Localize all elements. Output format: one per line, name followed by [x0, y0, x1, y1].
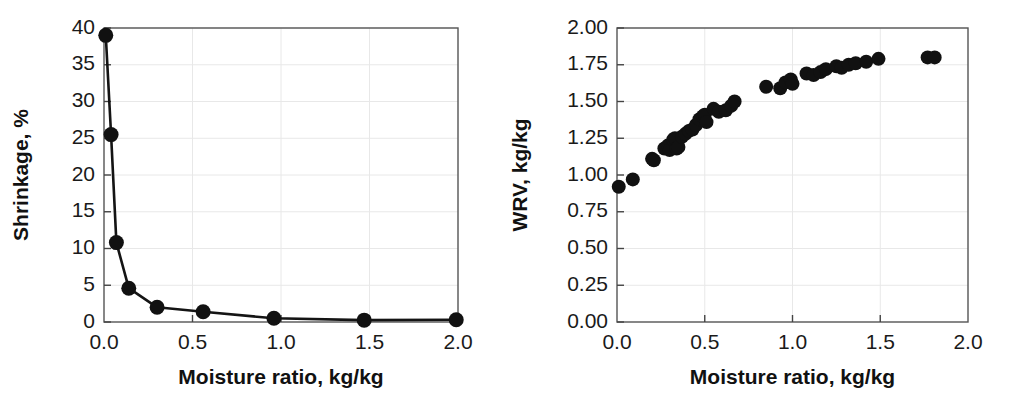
data-point: [872, 52, 886, 66]
data-point: [786, 77, 800, 91]
data-point: [109, 235, 124, 250]
data-point: [928, 50, 942, 64]
y-axis-title: Shrinkage, %: [9, 109, 32, 241]
two-panel-figure: 05101520253035400.00.51.01.52.0Shrinkage…: [0, 0, 1011, 417]
data-point: [759, 80, 773, 94]
shrinkage-panel: 05101520253035400.00.51.01.52.0Shrinkage…: [0, 0, 505, 417]
y-tick-label: 0.75: [567, 198, 608, 221]
data-point: [626, 172, 640, 186]
x-axis-title: Moisture ratio, kg/kg: [690, 365, 895, 388]
shrinkage-plot-svg: 05101520253035400.00.51.01.52.0Shrinkage…: [0, 0, 505, 417]
y-tick-label: 0: [83, 309, 95, 332]
x-axis-title: Moisture ratio, kg/kg: [178, 365, 383, 388]
data-point: [449, 312, 464, 327]
wrv-plot-svg: 0.000.250.500.751.001.251.501.752.000.00…: [505, 0, 1011, 417]
data-point: [98, 28, 113, 43]
data-point: [700, 115, 714, 129]
y-tick-label: 40: [72, 15, 95, 38]
y-tick-label: 25: [72, 125, 95, 148]
y-tick-label: 15: [72, 198, 95, 221]
y-tick-label: 10: [72, 235, 95, 258]
data-point: [104, 127, 119, 142]
y-tick-label: 20: [72, 162, 95, 185]
y-tick-label: 0.00: [567, 309, 608, 332]
y-tick-label: 1.75: [567, 51, 608, 74]
y-tick-label: 0.50: [567, 235, 608, 258]
y-tick-label: 1.25: [567, 125, 608, 148]
x-tick-label: 2.0: [443, 330, 472, 353]
y-tick-label: 35: [72, 51, 95, 74]
data-point: [612, 180, 626, 194]
y-tick-label: 1.00: [567, 162, 608, 185]
x-tick-label: 1.0: [266, 330, 295, 353]
data-point: [728, 95, 742, 109]
data-point: [150, 300, 165, 315]
x-tick-label: 0.5: [690, 330, 719, 353]
data-point: [196, 304, 211, 319]
x-tick-label: 1.0: [778, 330, 807, 353]
data-point: [647, 153, 661, 167]
y-axis-title: WRV, kg/kg: [508, 118, 531, 231]
x-tick-label: 2.0: [953, 330, 982, 353]
data-point: [357, 313, 372, 328]
y-tick-label: 0.25: [567, 272, 608, 295]
wrv-panel: 0.000.250.500.751.001.251.501.752.000.00…: [505, 0, 1011, 417]
y-tick-label: 1.50: [567, 88, 608, 111]
data-point: [266, 311, 281, 326]
data-point: [121, 281, 136, 296]
x-tick-label: 1.5: [355, 330, 384, 353]
x-tick-label: 0.5: [178, 330, 207, 353]
y-tick-label: 2.00: [567, 15, 608, 38]
x-tick-label: 1.5: [866, 330, 895, 353]
y-tick-label: 30: [72, 88, 95, 111]
x-tick-label: 0.0: [602, 330, 631, 353]
data-point: [859, 55, 873, 69]
y-tick-label: 5: [83, 272, 95, 295]
x-tick-label: 0.0: [89, 330, 118, 353]
